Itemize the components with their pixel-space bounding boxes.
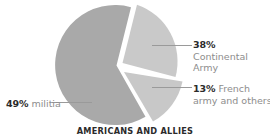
pie-chart-figure: 38% Continental Army 13% French army and… bbox=[0, 0, 270, 139]
callout-militia-label: militia bbox=[28, 98, 60, 109]
callout-french-army: 13% French army and others bbox=[193, 81, 270, 106]
pie-slice-continental-army[interactable] bbox=[123, 5, 178, 77]
callout-continental-percent: 38% bbox=[193, 39, 248, 51]
callout-french-percent: 13% bbox=[193, 83, 215, 94]
callout-militia-percent: 49% bbox=[6, 98, 28, 109]
callout-french-line-wrap: 13% French bbox=[193, 77, 250, 96]
callout-continental-label-line2: Army bbox=[193, 62, 248, 74]
callout-french-label-line2: army and others bbox=[193, 95, 270, 107]
callout-continental-army: 38% Continental Army bbox=[193, 39, 248, 74]
callout-continental-label-line1: Continental bbox=[193, 51, 248, 63]
chart-title: AMERICANS AND ALLIES bbox=[0, 126, 270, 136]
callout-french-label-line1: French bbox=[215, 83, 250, 94]
callout-militia: 49% militia bbox=[6, 96, 61, 110]
